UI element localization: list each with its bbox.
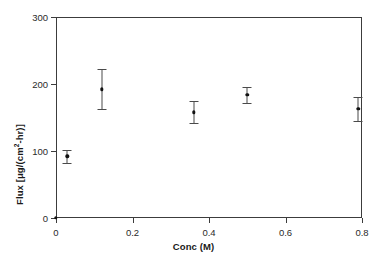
plot-area-frame (56, 17, 362, 218)
y-tick-mark (51, 17, 56, 18)
error-bar-cap (97, 109, 106, 110)
y-tick-label: 200 (16, 79, 48, 90)
x-tick-mark (209, 218, 210, 223)
x-axis-title: Conc (M) (0, 241, 387, 252)
data-point (54, 216, 57, 219)
x-tick-label: 0.4 (202, 227, 215, 238)
x-tick-label: 0 (53, 227, 58, 238)
error-bar-cap (97, 69, 106, 70)
y-axis-title: Flux [μg/(cm2-hr)] (14, 124, 25, 205)
error-bar-cap (63, 150, 72, 151)
error-bar-cap (243, 87, 252, 88)
chart-figure: 0100200300 00.20.40.60.8 Flux [μg/(cm2-h… (0, 0, 387, 262)
x-tick-label: 0.2 (126, 227, 139, 238)
x-tick-mark (286, 218, 287, 223)
y-tick-mark (51, 84, 56, 85)
y-tick-label: 0 (16, 213, 48, 224)
x-tick-label: 0.6 (279, 227, 292, 238)
error-bar-cap (189, 123, 198, 124)
x-tick-mark (133, 218, 134, 223)
error-bar-cap (354, 97, 363, 98)
x-tick-mark (362, 218, 363, 223)
x-tick-label: 0.8 (355, 227, 368, 238)
y-tick-label: 300 (16, 12, 48, 23)
y-tick-mark (51, 151, 56, 152)
error-bar-cap (189, 101, 198, 102)
error-bar-cap (63, 163, 72, 164)
error-bar-cap (354, 121, 363, 122)
error-bar-cap (243, 103, 252, 104)
